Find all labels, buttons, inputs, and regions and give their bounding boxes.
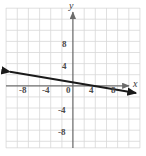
y-tick-label-4: 4 xyxy=(62,62,67,71)
x-tick-label-0: 0 xyxy=(66,86,71,95)
y-tick-label-neg4: -4 xyxy=(58,106,66,115)
y-tick-label-8: 8 xyxy=(62,40,67,49)
y-tick-label-neg8: -8 xyxy=(58,128,66,137)
x-axis-label: x xyxy=(133,79,137,89)
x-tick-label-8: 8 xyxy=(111,86,116,95)
x-tick-label-neg8: -8 xyxy=(19,86,27,95)
plot-canvas xyxy=(0,0,146,156)
coordinate-plane-figure: -8 -4 0 4 8 8 4 -4 -8 y x xyxy=(0,0,146,156)
x-tick-label-neg4: -4 xyxy=(42,86,50,95)
x-tick-label-4: 4 xyxy=(89,86,94,95)
y-axis-label: y xyxy=(69,1,73,11)
